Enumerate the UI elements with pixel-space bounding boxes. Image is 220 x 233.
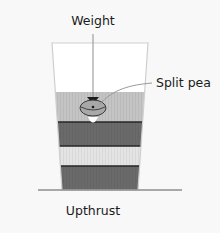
diagram-canvas: Weight Split pea Upthrust (0, 0, 220, 233)
weight-label: Weight (71, 13, 115, 28)
physics-floating-pea-diagram: Weight Split pea Upthrust (0, 0, 220, 233)
split-pea-center-dot (92, 106, 95, 109)
upthrust-label: Upthrust (66, 203, 120, 218)
split-pea-label: Split pea (156, 75, 211, 90)
